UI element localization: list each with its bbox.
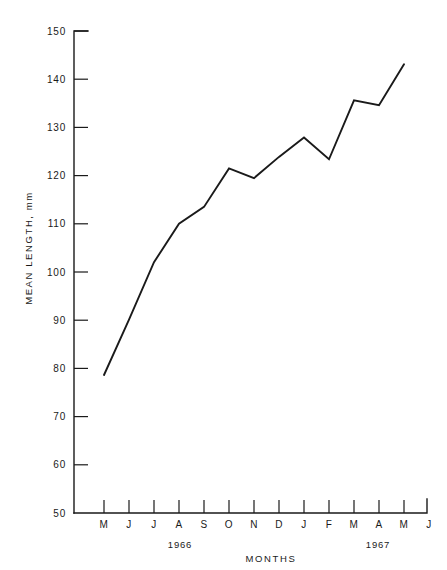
y-tick-label-60: 60	[53, 459, 66, 470]
y-tick-label-110: 110	[48, 218, 66, 229]
x-tick-label-0: M	[100, 519, 109, 530]
x-tick-label-1: J	[126, 519, 132, 530]
y-tick-label-120: 120	[47, 170, 66, 181]
y-tick-label-140: 140	[47, 74, 66, 85]
y-tick-label-150: 150	[47, 26, 66, 37]
x-axis-ticks	[104, 500, 404, 513]
x-tick-label-8: J	[301, 519, 307, 530]
x-tick-label-5: O	[225, 519, 233, 530]
y-tick-label-50: 50	[53, 508, 66, 519]
x-tick-label-13: J	[426, 519, 432, 530]
line-chart-svg: 150 140 130 120 110 100 90 80 70 60 50	[0, 0, 447, 570]
x-tick-label-9: F	[326, 519, 333, 530]
x-axis-line	[74, 499, 427, 513]
y-axis-ticks	[74, 31, 88, 465]
x-tick-label-4: S	[200, 519, 207, 530]
x-tick-label-3: A	[175, 519, 182, 530]
x-tick-label-7: D	[275, 519, 283, 530]
year-label-1966: 1966	[168, 539, 192, 550]
y-axis-tick-labels: 150 140 130 120 110 100 90 80 70 60 50	[47, 26, 66, 519]
year-label-1967: 1967	[366, 539, 390, 550]
y-tick-label-80: 80	[53, 363, 66, 374]
x-tick-label-12: M	[400, 519, 409, 530]
chart-figure: 150 140 130 120 110 100 90 80 70 60 50	[0, 0, 447, 570]
data-series-mean-length	[104, 64, 404, 375]
x-tick-label-2: J	[151, 519, 157, 530]
y-tick-label-70: 70	[53, 411, 66, 422]
y-tick-label-90: 90	[53, 315, 66, 326]
x-tick-label-6: N	[250, 519, 258, 530]
x-tick-label-10: M	[350, 519, 359, 530]
x-tick-label-11: A	[375, 519, 382, 530]
y-axis-title: MEAN LENGTH, mm	[23, 191, 34, 305]
y-tick-label-100: 100	[47, 267, 66, 278]
x-axis-tick-labels: M J J A S O N D J F M A M J	[100, 519, 432, 530]
x-axis-title: MONTHS	[246, 553, 297, 564]
y-tick-label-130: 130	[47, 122, 66, 133]
